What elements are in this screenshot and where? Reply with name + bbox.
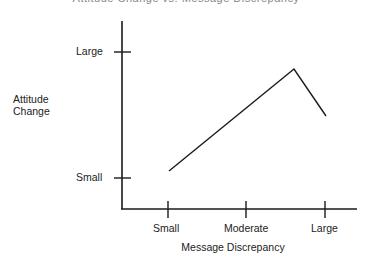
y-axis-label-line1: Attitude: [13, 93, 50, 105]
y-tick-label-small: Small: [76, 171, 102, 183]
y-axis-label: Attitude Change: [13, 93, 50, 117]
x-tick-label-large: Large: [311, 222, 338, 234]
y-tick-label-large: Large: [76, 45, 103, 57]
x-tick-label-moderate: Moderate: [224, 222, 268, 234]
x-axis-label: Message Discrepancy: [47, 241, 372, 253]
x-tick-label-small: Small: [153, 222, 179, 234]
attitude-change-line: [169, 69, 326, 171]
y-axis-label-line2: Change: [13, 105, 50, 117]
